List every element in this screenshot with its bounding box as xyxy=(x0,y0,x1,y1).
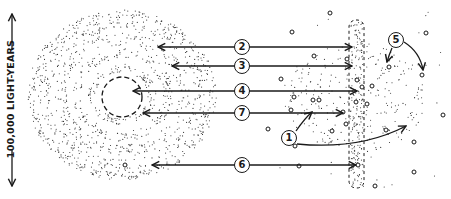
scale-label: 100,000 LIGHT-YEARS xyxy=(5,29,19,169)
label-5: 5 xyxy=(388,32,404,48)
arrow-5b xyxy=(404,42,423,70)
core-dashed-circle xyxy=(102,77,142,117)
label-2: 2 xyxy=(234,39,250,55)
galaxy-diagram: 100,000 LIGHT-YEARS 1234567 xyxy=(0,0,451,199)
label-3: 3 xyxy=(234,58,250,74)
arrow-1a xyxy=(296,112,312,131)
arrow-5a xyxy=(387,48,392,62)
diagram-canvas xyxy=(0,0,451,199)
label-6: 6 xyxy=(234,157,250,173)
label-1: 1 xyxy=(281,130,297,146)
label-4: 4 xyxy=(234,83,250,99)
label-7: 7 xyxy=(234,105,250,121)
